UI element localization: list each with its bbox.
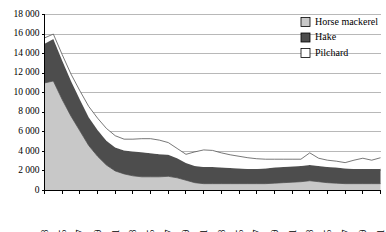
y-axis-tick-label: 2 000	[18, 165, 40, 175]
y-axis-labels: 02 0004 0006 0008 00010 00012 00014 0001…	[13, 9, 39, 195]
x-axis-tick-label: 1973	[128, 229, 138, 232]
legend-label-horse-mackerel: Horse mackerel	[315, 16, 378, 27]
x-axis-tick-label: 1987	[252, 229, 262, 232]
x-axis-tick-label: 2001	[376, 229, 386, 232]
x-axis-tick-label: 1977	[164, 229, 174, 232]
x-axis-tick-label: 1995	[323, 229, 333, 232]
legend-label-hake: Hake	[315, 31, 337, 42]
x-axis-tick-label: 1965	[58, 229, 68, 232]
x-axis-tick-label: 1985	[235, 229, 245, 232]
x-axis-tick-label: 1989	[270, 229, 280, 232]
y-axis-tick-label: 6 000	[18, 126, 40, 136]
x-axis-tick-label: 1975	[146, 229, 156, 232]
x-axis-tick-label: 1997	[341, 229, 351, 232]
x-axis-tick-label: 1967	[75, 229, 85, 232]
x-axis-tick-label: 1963	[40, 229, 50, 232]
legend-swatch-pilchard	[301, 49, 310, 58]
chart-container: 02 0004 0006 0008 00010 00012 00014 0001…	[0, 0, 386, 232]
x-axis-tick-label: 1979	[181, 229, 191, 232]
y-axis-tick-label: 12 000	[13, 67, 39, 77]
x-axis-tick-label: 1993	[305, 229, 315, 232]
chart-legend: Horse mackerelHakePilchard	[301, 16, 378, 58]
y-axis-tick-label: 4 000	[18, 146, 40, 156]
y-axis-tick-label: 10 000	[13, 87, 39, 97]
y-axis-tick-label: 8 000	[18, 106, 40, 116]
y-axis-tick-label: 14 000	[13, 48, 39, 58]
y-axis-tick-label: 0	[35, 185, 40, 195]
x-axis-tick-label: 1971	[111, 229, 121, 232]
stacked-area-chart: 02 0004 0006 0008 00010 00012 00014 0001…	[0, 0, 386, 232]
legend-label-pilchard: Pilchard	[315, 47, 348, 58]
x-axis-tick-label: 1983	[217, 229, 227, 232]
legend-swatch-horse-mackerel	[301, 18, 310, 27]
x-axis-tick-label: 1991	[288, 229, 298, 232]
x-axis-labels: 1963196519671969197119731975197719791981…	[40, 229, 386, 232]
x-axis-tick-label: 1999	[358, 229, 368, 232]
y-axis-tick-label: 16 000	[13, 28, 39, 38]
x-axis-tick-label: 1969	[93, 229, 103, 232]
legend-swatch-hake	[301, 33, 310, 42]
y-axis-tick-label: 18 000	[13, 9, 39, 19]
x-axis-tick-label: 1981	[199, 229, 209, 232]
